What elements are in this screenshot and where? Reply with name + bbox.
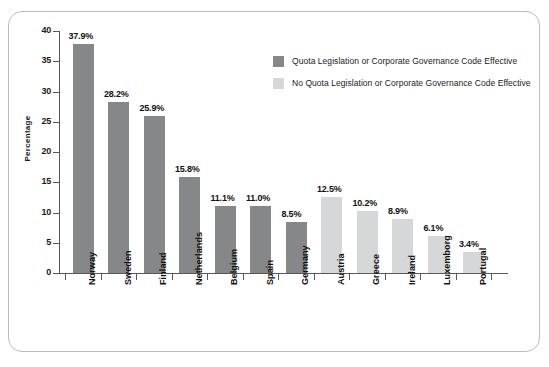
- bar-value-label: 11.0%: [246, 193, 270, 203]
- legend-swatch-icon: [273, 78, 284, 89]
- y-axis-tick-label: 0: [15, 267, 51, 277]
- x-axis-tick: [491, 274, 492, 280]
- x-axis-tick: [385, 274, 386, 280]
- bar-value-label: 3.4%: [459, 239, 479, 249]
- plot-area: 4035302520151050 Percentage 37.9%28.2%25…: [9, 12, 539, 351]
- x-axis-tick: [101, 274, 102, 280]
- bar-value-label: 37.9%: [69, 31, 94, 41]
- bar: [144, 116, 165, 273]
- legend-label: No Quota Legislation or Corporate Govern…: [292, 78, 531, 88]
- category-label: Norway: [87, 252, 97, 285]
- bar-value-label: 15.8%: [175, 164, 200, 174]
- x-axis-tick: [243, 274, 244, 280]
- category-label: Ireland: [407, 255, 417, 285]
- bar-value-label: 10.2%: [353, 198, 378, 208]
- x-axis-tick: [456, 274, 457, 280]
- bar: [73, 44, 94, 273]
- y-axis-tick: [53, 92, 59, 93]
- category-label: Austria: [336, 253, 346, 285]
- bar-value-label: 28.2%: [104, 89, 129, 99]
- category-label: Sweden: [123, 250, 133, 285]
- y-axis-tick-label: 20: [15, 146, 51, 156]
- chart-legend: Quota Legislation or Corporate Governanc…: [273, 50, 531, 94]
- y-axis-tick-label: 35: [15, 55, 51, 65]
- x-axis-tick: [278, 274, 279, 280]
- chart-frame: 4035302520151050 Percentage 37.9%28.2%25…: [8, 11, 540, 352]
- y-axis-tick-label: 15: [15, 176, 51, 186]
- y-axis-tick-label: 30: [15, 86, 51, 96]
- x-axis-tick: [172, 274, 173, 280]
- y-axis-tick: [53, 122, 59, 123]
- bar-value-label: 8.5%: [282, 209, 302, 219]
- x-axis-tick: [314, 274, 315, 280]
- category-label: Finland: [158, 252, 168, 285]
- y-axis-tick-label: 5: [15, 237, 51, 247]
- y-axis-line: [59, 31, 60, 274]
- bar-value-label: 12.5%: [317, 184, 342, 194]
- legend-swatch-icon: [273, 56, 284, 67]
- y-axis-tick: [53, 152, 59, 153]
- category-label: Netherlands: [194, 232, 204, 285]
- y-axis-tick-label: 10: [15, 207, 51, 217]
- category-label: Portugal: [478, 248, 488, 285]
- y-axis-tick: [53, 213, 59, 214]
- category-label: Spain: [265, 260, 275, 285]
- y-axis-tick: [53, 182, 59, 183]
- y-axis-title: Percentage: [23, 94, 32, 184]
- category-label: Luxemborg: [442, 235, 452, 285]
- bar-value-label: 11.1%: [211, 193, 235, 203]
- x-axis-tick: [65, 274, 66, 280]
- x-axis-tick: [207, 274, 208, 280]
- bar: [108, 102, 129, 273]
- bar-value-label: 8.9%: [388, 206, 408, 216]
- legend-label: Quota Legislation or Corporate Governanc…: [292, 56, 517, 66]
- x-axis-tick: [349, 274, 350, 280]
- category-label: Belgium: [229, 249, 239, 285]
- legend-item: No Quota Legislation or Corporate Govern…: [273, 72, 531, 94]
- category-label: Greece: [371, 254, 381, 285]
- bar-value-label: 6.1%: [424, 223, 444, 233]
- x-axis-tick: [420, 274, 421, 280]
- y-axis-tick-label: 25: [15, 116, 51, 126]
- y-axis-tick: [53, 243, 59, 244]
- y-axis-tick: [53, 61, 59, 62]
- category-label: Germany: [300, 245, 310, 285]
- legend-item: Quota Legislation or Corporate Governanc…: [273, 50, 531, 72]
- y-axis-tick: [53, 31, 59, 32]
- x-axis-tick: [136, 274, 137, 280]
- y-axis-tick: [53, 273, 59, 274]
- y-axis-tick-label: 40: [15, 25, 51, 35]
- bar-value-label: 25.9%: [140, 103, 165, 113]
